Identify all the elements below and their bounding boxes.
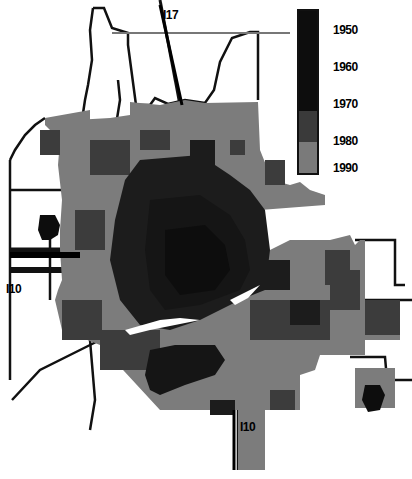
legend: 1950 1960 1970 1980 1990: [297, 9, 397, 177]
highway-label-i17: I17: [163, 8, 178, 22]
legend-label-1950: 1950: [333, 23, 358, 37]
legend-label-1990: 1990: [333, 161, 358, 175]
highway-label-i10-south: I10: [240, 420, 255, 434]
highway-label-i10-west: I10: [6, 282, 21, 296]
legend-label-1980: 1980: [333, 134, 358, 148]
legend-swatch-1990: [299, 142, 317, 173]
legend-label-1970: 1970: [333, 97, 358, 111]
legend-swatch-1980: [299, 111, 317, 142]
legend-color-bar: [297, 9, 319, 175]
legend-swatch-1950-1970: [299, 11, 317, 111]
legend-label-1960: 1960: [333, 60, 358, 74]
